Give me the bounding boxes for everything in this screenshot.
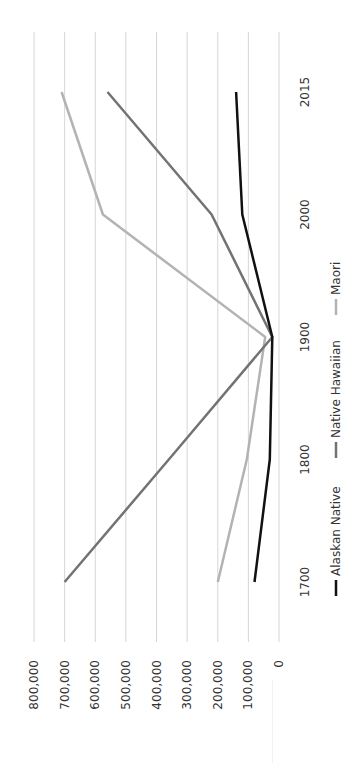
- value-tick-label: 800,000: [27, 660, 41, 710]
- gridlines: 0100,000200,000300,000400,000500,000600,…: [27, 32, 286, 710]
- value-tick-label: 0: [272, 660, 286, 668]
- line-chart: 0100,000200,000300,000400,000500,000600,…: [0, 0, 355, 763]
- category-tick-label: 2000: [298, 199, 312, 230]
- series-line-alaskan-native: [236, 92, 272, 582]
- category-tick-label: 1700: [298, 567, 312, 598]
- legend-label: Native Hawaiian: [329, 340, 343, 438]
- value-tick-label: 200,000: [211, 660, 225, 710]
- legend-label: Maori: [329, 262, 343, 295]
- value-tick-label: 600,000: [88, 660, 102, 710]
- series-line-maori: [62, 92, 266, 582]
- value-tick-label: 700,000: [58, 660, 72, 710]
- value-tick-label: 500,000: [119, 660, 133, 710]
- category-tick-label: 2015: [298, 77, 312, 108]
- chart-frame-edge: [272, 680, 273, 763]
- series-line-native-hawaiian: [65, 92, 273, 582]
- category-tick-label: 1800: [298, 444, 312, 475]
- category-axis: 17001800190020002015: [298, 77, 312, 598]
- value-tick-label: 400,000: [150, 660, 164, 710]
- category-tick-label: 1900: [298, 322, 312, 353]
- legend-label: Alaskan Native: [329, 486, 343, 576]
- chart-canvas: 0100,000200,000300,000400,000500,000600,…: [0, 0, 355, 763]
- legend: Alaskan NativeNative HawaiianMaori: [329, 262, 343, 596]
- value-tick-label: 300,000: [180, 660, 194, 710]
- value-tick-label: 100,000: [241, 660, 255, 710]
